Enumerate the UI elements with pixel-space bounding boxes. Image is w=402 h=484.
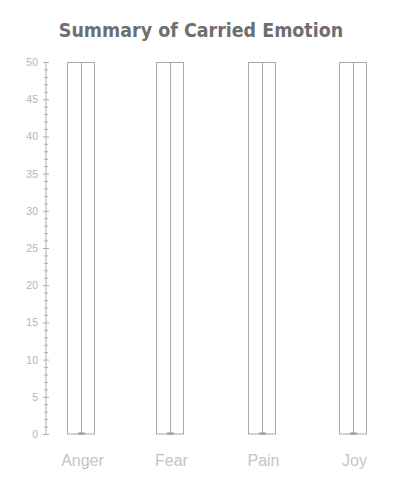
y-tick-label: 40 — [26, 130, 38, 142]
bar-pain[interactable] — [249, 63, 276, 435]
bar-base-marker — [167, 432, 175, 435]
bar-anger[interactable] — [68, 63, 95, 435]
bar-chart: 05101520253035404550 AngerFearPainJoy — [0, 0, 402, 484]
bar-base-marker — [78, 432, 86, 435]
y-tick-label: 15 — [26, 316, 38, 328]
y-tick-label: 30 — [26, 205, 38, 217]
y-axis: 05101520253035404550 — [26, 56, 49, 440]
y-tick-label: 45 — [26, 93, 38, 105]
y-tick-label: 5 — [32, 391, 38, 403]
x-tick-label-joy: Joy — [342, 452, 367, 469]
x-tick-label-pain: Pain — [247, 452, 279, 469]
y-tick-label: 50 — [26, 56, 38, 68]
y-tick-label: 25 — [26, 242, 38, 254]
y-tick-label: 0 — [32, 428, 38, 440]
bar-joy[interactable] — [340, 63, 367, 435]
bar-fear[interactable] — [157, 63, 184, 435]
bar-base-marker — [350, 432, 358, 435]
bar-base-marker — [259, 432, 267, 435]
y-tick-label: 10 — [26, 354, 38, 366]
x-axis-labels: AngerFearPainJoy — [61, 452, 367, 469]
y-tick-label: 20 — [26, 279, 38, 291]
x-tick-label-fear: Fear — [155, 452, 189, 469]
y-tick-label: 35 — [26, 168, 38, 180]
bars — [68, 63, 367, 435]
x-tick-label-anger: Anger — [61, 452, 104, 469]
